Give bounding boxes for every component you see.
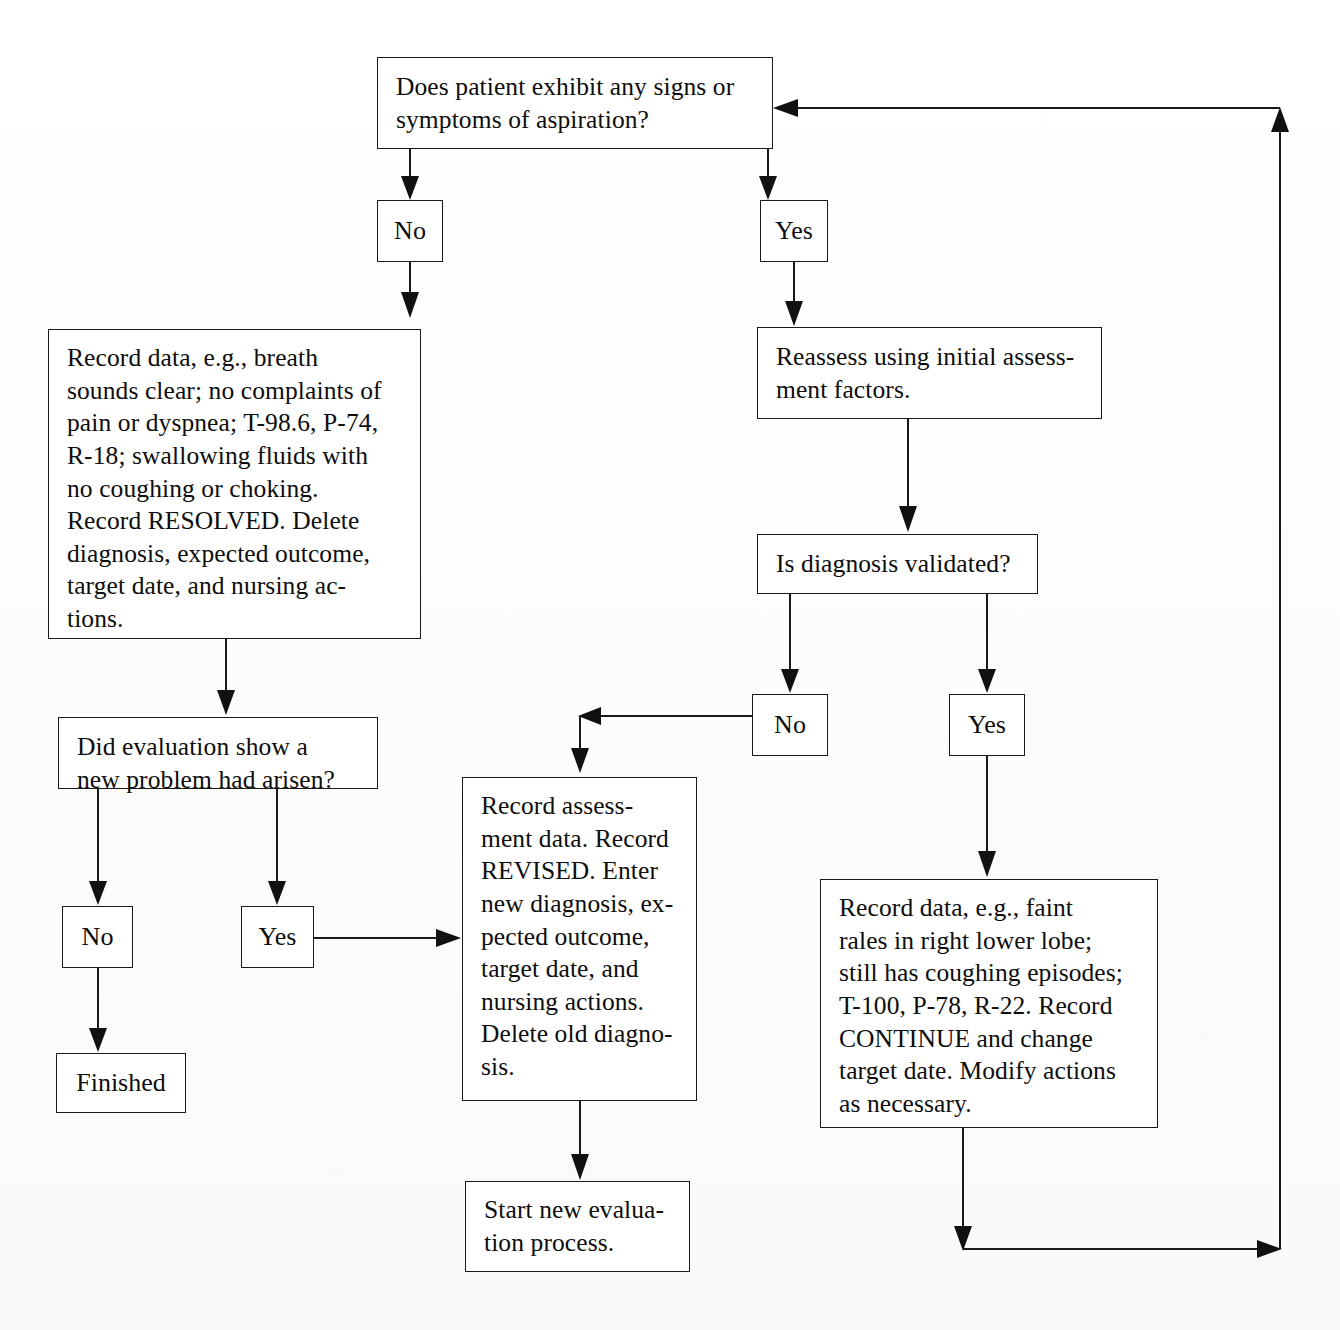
node-yes-bottom[interactable]: Yes — [241, 906, 314, 968]
node-yes-top[interactable]: Yes — [760, 200, 828, 262]
edge-no-bottom-to-finished — [89, 968, 107, 1052]
edge-yes-bottom-to-record-revised — [314, 929, 461, 947]
node-text: Record data, e.g., faint rales in right … — [821, 880, 1157, 1128]
node-reassess-initial-factors[interactable]: Reassess using initial assess- ment fact… — [757, 327, 1102, 419]
edge-yes-validated-to-record-continue — [978, 756, 996, 877]
node-text: Yes — [259, 924, 297, 950]
edge-no-top-to-record-resolved — [401, 262, 419, 318]
node-text: Did evaluation show a new problem had ar… — [59, 718, 377, 804]
node-record-revised[interactable]: Record assess- ment data. Record REVISED… — [462, 777, 697, 1101]
node-text: Yes — [968, 712, 1006, 738]
node-text: Record assess- ment data. Record REVISED… — [463, 778, 696, 1092]
connector-layer — [0, 0, 1340, 1330]
edge-record-revised-to-start-new — [571, 1101, 589, 1180]
node-text: Record data, e.g., breath sounds clear; … — [49, 330, 420, 644]
node-did-evaluation-show-new-problem[interactable]: Did evaluation show a new problem had ar… — [58, 717, 378, 789]
edge-new-problem-to-no — [89, 789, 107, 905]
node-start-new-evaluation-process[interactable]: Start new evalua- tion process. — [465, 1181, 690, 1272]
node-text: No — [394, 218, 426, 244]
paper-texture — [0, 0, 1340, 1330]
flowchart-canvas: Does patient exhibit any signs or sympto… — [0, 0, 1340, 1330]
node-no-bottom[interactable]: No — [62, 906, 133, 968]
node-record-resolved[interactable]: Record data, e.g., breath sounds clear; … — [48, 329, 421, 639]
edge-no-validated-to-record-revised — [571, 707, 752, 773]
node-is-diagnosis-validated[interactable]: Is diagnosis validated? — [757, 534, 1038, 594]
edge-question-to-no-top — [401, 149, 419, 200]
node-text: Finished — [70, 1070, 172, 1096]
node-text: No — [82, 924, 114, 950]
node-finished[interactable]: Finished — [56, 1053, 186, 1113]
node-text: Reassess using initial assess- ment fact… — [758, 328, 1101, 414]
edge-is-validated-to-no — [781, 594, 799, 693]
node-no-validated[interactable]: No — [752, 694, 828, 756]
edge-new-problem-to-yes — [268, 789, 286, 905]
edge-record-resolved-to-new-problem — [217, 639, 235, 715]
node-no-top[interactable]: No — [377, 200, 443, 262]
node-record-continue[interactable]: Record data, e.g., faint rales in right … — [820, 879, 1158, 1128]
edge-yes-top-to-reassess — [785, 262, 803, 326]
node-text: No — [774, 712, 806, 738]
edge-reassess-to-is-validated — [899, 419, 917, 532]
node-text: Does patient exhibit any signs or sympto… — [378, 58, 772, 144]
node-text: Is diagnosis validated? — [758, 535, 1037, 588]
node-does-patient-exhibit-signs[interactable]: Does patient exhibit any signs or sympto… — [377, 57, 773, 149]
node-text: Yes — [775, 218, 813, 244]
edge-is-validated-to-yes — [978, 594, 996, 693]
node-yes-validated[interactable]: Yes — [949, 694, 1025, 756]
edge-question-to-yes-top — [759, 149, 777, 200]
node-text: Start new evalua- tion process. — [466, 1182, 689, 1267]
